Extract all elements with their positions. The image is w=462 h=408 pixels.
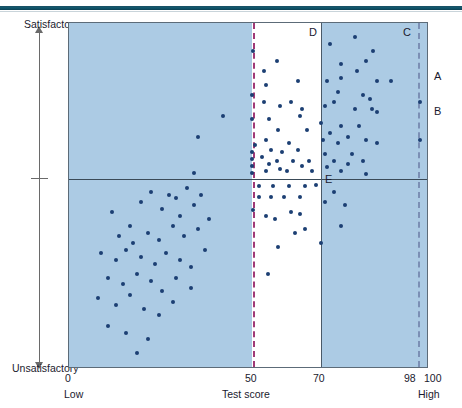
- data-point: [289, 100, 293, 104]
- data-point: [250, 171, 254, 175]
- cutoff-line-70: [321, 23, 322, 367]
- data-point: [149, 190, 153, 194]
- data-point: [139, 200, 143, 204]
- data-point: [293, 231, 297, 235]
- data-point: [182, 234, 186, 238]
- data-point: [250, 93, 254, 97]
- data-point: [275, 159, 279, 163]
- data-point: [253, 143, 257, 147]
- data-point: [128, 293, 132, 297]
- data-point: [332, 159, 336, 163]
- data-point: [139, 255, 143, 259]
- x-axis-high-label: High: [418, 388, 440, 400]
- data-point: [250, 150, 254, 154]
- data-point: [251, 49, 255, 53]
- data-point: [296, 79, 300, 83]
- data-point: [350, 152, 354, 156]
- x-tick-100: 100: [424, 372, 442, 384]
- data-point: [96, 296, 100, 300]
- data-point: [269, 195, 273, 199]
- data-point: [262, 100, 266, 104]
- data-point: [278, 167, 282, 171]
- data-point: [106, 276, 110, 280]
- data-point: [250, 157, 254, 161]
- point-label-e: E: [325, 173, 332, 185]
- data-point: [310, 169, 314, 173]
- data-point: [267, 162, 271, 166]
- data-point: [157, 238, 161, 242]
- data-point: [189, 286, 193, 290]
- data-point: [114, 303, 118, 307]
- data-point: [171, 300, 175, 304]
- point-label-a: A: [434, 70, 441, 82]
- data-point: [266, 272, 270, 276]
- data-point: [336, 141, 340, 145]
- shaded-region-above-70: [321, 23, 427, 367]
- scatter-plot-figure: Satisfactory Unsatisfactory Job performa…: [0, 0, 462, 408]
- data-point: [271, 184, 275, 188]
- data-point: [250, 117, 254, 121]
- data-point: [276, 128, 280, 132]
- x-tick-70: 70: [313, 372, 325, 384]
- data-point: [303, 227, 307, 231]
- data-point: [361, 159, 365, 163]
- data-point: [346, 135, 350, 139]
- data-point: [298, 114, 302, 118]
- header-rule: [0, 6, 462, 10]
- data-point: [339, 224, 343, 228]
- data-point: [303, 184, 307, 188]
- data-point: [221, 114, 225, 118]
- data-point: [371, 49, 375, 53]
- x-axis-title: Test score: [222, 388, 270, 400]
- quadrant-label-c: C: [403, 26, 411, 38]
- data-point: [368, 97, 372, 101]
- data-point: [264, 214, 268, 218]
- shaded-region-below-50: [69, 23, 252, 367]
- data-point: [196, 135, 200, 139]
- data-point: [260, 155, 264, 159]
- data-point: [262, 69, 266, 73]
- data-point: [146, 231, 150, 235]
- data-point-e: [314, 183, 318, 187]
- data-point: [153, 262, 157, 266]
- data-point: [285, 169, 289, 173]
- data-point: [269, 148, 273, 152]
- data-point: [257, 184, 261, 188]
- data-point: [296, 148, 300, 152]
- data-point: [192, 171, 196, 175]
- data-point: [275, 59, 279, 63]
- data-point: [114, 258, 118, 262]
- point-label-b: B: [434, 105, 441, 117]
- data-point: [339, 169, 343, 173]
- data-point: [160, 207, 164, 211]
- data-point: [267, 117, 271, 121]
- data-point-b: [418, 138, 422, 142]
- data-point: [278, 104, 282, 108]
- data-point: [142, 307, 146, 311]
- data-point: [276, 245, 280, 249]
- header-rule-hairline: [0, 11, 462, 12]
- data-point: [323, 200, 327, 204]
- x-tick-50: 50: [245, 372, 257, 384]
- data-point: [291, 159, 295, 163]
- performance-midline: [69, 179, 427, 180]
- data-point: [207, 217, 211, 221]
- data-point: [370, 107, 374, 111]
- data-point: [323, 104, 327, 108]
- data-point: [289, 210, 293, 214]
- quadrant-label-d: D: [309, 26, 317, 38]
- cutoff-line-98: [418, 23, 420, 367]
- data-point: [287, 141, 291, 145]
- data-point-a: [418, 100, 422, 104]
- data-point: [307, 159, 311, 163]
- plot-area: D C E: [68, 22, 428, 368]
- data-point: [332, 190, 336, 194]
- data-point: [273, 217, 277, 221]
- data-point: [332, 100, 336, 104]
- data-point: [264, 138, 268, 142]
- data-point: [323, 152, 327, 156]
- data-point: [300, 107, 304, 111]
- data-point: [264, 169, 268, 173]
- x-axis-low-label: Low: [64, 388, 83, 400]
- data-point: [171, 224, 175, 228]
